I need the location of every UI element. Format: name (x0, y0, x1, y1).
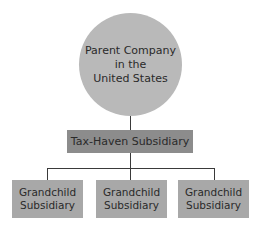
connector-haven-down (130, 153, 131, 168)
connector-parent-to-haven (130, 116, 131, 130)
leaf-3-line-1: Grandchild (185, 186, 242, 199)
tax-haven-label: Tax-Haven Subsidiary (71, 135, 189, 148)
parent-company-node: Parent Company in the United States (79, 13, 182, 116)
leaf-1-line-1: Grandchild (19, 186, 76, 199)
parent-label-line-2: in the (85, 58, 176, 72)
grandchild-subsidiary-node-3: Grandchild Subsidiary (178, 180, 249, 218)
tax-haven-subsidiary-node: Tax-Haven Subsidiary (67, 130, 193, 153)
leaf-2-line-1: Grandchild (103, 186, 160, 199)
leaf-1-line-2: Subsidiary (19, 199, 76, 212)
leaf-2-line-2: Subsidiary (103, 199, 160, 212)
connector-to-leaf-3 (214, 168, 215, 180)
leaf-3-line-2: Subsidiary (185, 199, 242, 212)
grandchild-subsidiary-node-2: Grandchild Subsidiary (96, 180, 167, 218)
connector-to-leaf-2 (130, 168, 131, 180)
parent-label-line-1: Parent Company (85, 44, 176, 58)
connector-horizontal-bus (47, 168, 215, 169)
connector-to-leaf-1 (47, 168, 48, 180)
grandchild-subsidiary-node-1: Grandchild Subsidiary (12, 180, 83, 218)
parent-label-line-3: United States (85, 72, 176, 86)
